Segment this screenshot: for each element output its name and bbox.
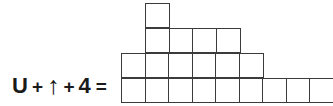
unit-square xyxy=(145,53,170,78)
staircase-row-top xyxy=(145,3,169,28)
unit-square xyxy=(239,78,264,103)
unit-square xyxy=(216,28,241,53)
unit-square xyxy=(168,53,193,78)
staircase-row-lower-middle xyxy=(121,53,262,78)
unit-square xyxy=(145,3,170,28)
block-diagram-screen: U + ↑ + 4 = xyxy=(0,0,333,106)
unit-square xyxy=(121,53,146,78)
unit-square xyxy=(262,78,287,103)
unit-square xyxy=(192,78,217,103)
unit-square xyxy=(239,53,264,78)
staircase-row-bottom xyxy=(121,78,333,103)
unit-square xyxy=(215,78,240,103)
unit-square xyxy=(309,78,333,103)
unit-square xyxy=(169,28,194,53)
unit-square xyxy=(145,78,170,103)
unit-square xyxy=(121,78,146,103)
unit-square-staircase-figure xyxy=(0,0,333,106)
unit-square xyxy=(145,28,170,53)
unit-square xyxy=(168,78,193,103)
unit-square xyxy=(215,53,240,78)
staircase-row-upper-middle xyxy=(145,28,239,53)
unit-square xyxy=(286,78,311,103)
unit-square xyxy=(192,28,217,53)
unit-square xyxy=(192,53,217,78)
